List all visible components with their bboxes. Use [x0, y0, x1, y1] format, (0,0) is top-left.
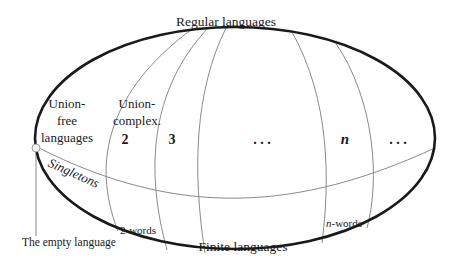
- column-2-label: 2: [122, 132, 129, 147]
- ellipsis-label-2: . . .: [389, 132, 407, 147]
- empty-language-node: [32, 144, 40, 152]
- ellipsis-boundary-curve: [292, 32, 326, 243]
- two-words-label: 2-words: [120, 224, 156, 236]
- col3-boundary-curve: [198, 28, 226, 253]
- union-complex-label-line1: Union-: [119, 96, 156, 111]
- singletons-boundary-line: [37, 147, 435, 198]
- union-free-label-line3: languages: [41, 130, 93, 145]
- empty-language-label: The empty language: [22, 236, 116, 249]
- column-n-label: n: [341, 131, 349, 147]
- regular-languages-ellipse: [35, 27, 435, 249]
- n-words-suffix: -words: [332, 217, 363, 229]
- column-3-label: 3: [169, 132, 176, 147]
- union-free-label-line1: Union-: [49, 96, 86, 111]
- ellipsis-label-1: . . .: [253, 132, 271, 147]
- language-hierarchy-diagram: Regular languages Union- free languages …: [0, 0, 456, 272]
- union-free-boundary-curve: [106, 29, 192, 231]
- union-free-label-line2: free: [57, 113, 77, 128]
- finite-languages-label: Finite languages: [199, 239, 288, 254]
- title-label: Regular languages: [176, 14, 276, 29]
- union-complex-label-line2: complex.: [113, 113, 161, 128]
- n-words-label: n-words: [326, 217, 362, 229]
